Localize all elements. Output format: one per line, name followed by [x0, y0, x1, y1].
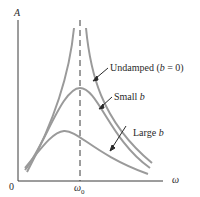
origin-label: 0	[9, 182, 14, 192]
resonance-plot	[0, 0, 200, 197]
large-b-arrowhead-icon	[110, 145, 115, 151]
large-b-label: Large b	[133, 128, 164, 138]
resonance-figure: A 0 ω0 ω Undamped (b = 0) Small b Large …	[0, 0, 200, 197]
small-b-label: Small b	[114, 92, 145, 102]
undamped-curve-left	[27, 28, 74, 172]
undamped-label: Undamped (b = 0)	[110, 63, 184, 73]
x-axis-label: ω	[172, 175, 179, 185]
y-axis-label: A	[14, 8, 20, 18]
omega0-tick-label: ω0	[74, 183, 85, 196]
